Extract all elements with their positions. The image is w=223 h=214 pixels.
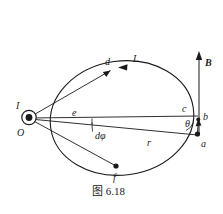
- current-out-of-page-dot: [26, 114, 33, 121]
- loop-direction-arrowhead: [118, 64, 128, 70]
- label-angle-dphi: dφ: [95, 131, 106, 141]
- label-current-I: I: [16, 101, 19, 111]
- ray-O-to-b: [30, 116, 198, 118]
- label-point-a: a: [201, 139, 206, 149]
- physics-figure: I O d L e c b a f θ dφ r B 图 6.18: [0, 0, 223, 214]
- figure-drawing: [0, 0, 223, 214]
- point-marker-a: [195, 131, 200, 136]
- label-field-B: B: [205, 58, 212, 68]
- label-point-b: b: [203, 112, 208, 122]
- label-origin-O: O: [17, 128, 24, 138]
- label-loop-L: L: [133, 54, 139, 64]
- label-point-f: f: [113, 173, 116, 183]
- label-radius-r: r: [147, 138, 151, 148]
- point-marker-f: [113, 163, 118, 168]
- label-angle-theta: θ: [185, 119, 190, 129]
- figure-caption: 图 6.18: [92, 186, 125, 197]
- point-marker-b: [196, 118, 200, 122]
- ray-O-to-d: [30, 71, 111, 118]
- ray-d-arrowhead: [103, 71, 111, 78]
- label-point-d: d: [105, 57, 110, 67]
- label-point-e: e: [72, 108, 76, 118]
- field-B-arrowhead: [196, 51, 202, 60]
- label-point-c: c: [182, 104, 186, 114]
